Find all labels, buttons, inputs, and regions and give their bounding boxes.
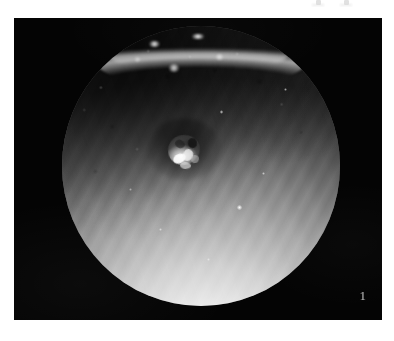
text-remnant-glyph-right xyxy=(344,0,349,5)
figure-photo-plate: 1 xyxy=(14,18,382,320)
figure-number-label: 1 xyxy=(360,289,367,302)
endoscopic-field-of-view xyxy=(62,26,340,306)
text-remnant-glyph-left xyxy=(316,0,321,5)
specular-glare-spot xyxy=(215,54,224,60)
clipped-text-remnants xyxy=(300,0,394,7)
bright-speck xyxy=(159,228,162,231)
bright-speck xyxy=(262,172,265,175)
specular-glare-spot xyxy=(134,57,141,62)
specular-glare-spot xyxy=(168,64,180,72)
central-lesion xyxy=(156,121,212,177)
page-canvas: 1 xyxy=(0,0,394,341)
